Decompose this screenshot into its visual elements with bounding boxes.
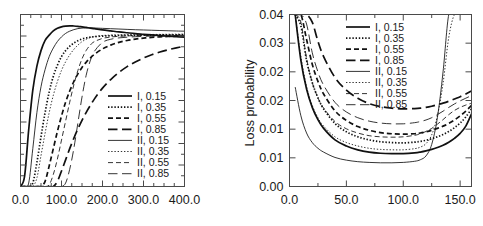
y-tick-label: 0.02	[259, 94, 283, 108]
x-tick-label: 150.0	[444, 193, 475, 207]
legend-label: II, 0.85	[137, 167, 169, 179]
x-tick-label: 100.0	[388, 193, 419, 207]
y-tick-label: 0.03	[259, 36, 283, 50]
x-tick-label: 400.0	[169, 193, 200, 207]
x-tick-label: 100.0	[46, 193, 77, 207]
right-ytick-labels: 0.000.010.010.020.020.030.04	[259, 8, 283, 194]
y-tick-label: 0.04	[259, 8, 283, 22]
legend-label: II, 0.85	[375, 98, 407, 110]
right-plot-svg: Loss probability 0.000.010.010.020.020.0…	[242, 0, 483, 226]
x-tick-label: 300.0	[128, 193, 159, 207]
right-legend: I, 0.15I, 0.35I, 0.55I, 0.85II, 0.15II, …	[346, 21, 407, 111]
figure-container: 0.0100.0200.0300.0400.0 I, 0.15I, 0.35I,…	[0, 0, 483, 226]
x-tick-label: 50.0	[334, 193, 358, 207]
chart-panel-left: 0.0100.0200.0300.0400.0 I, 0.15I, 0.35I,…	[0, 0, 242, 226]
chart-panel-right: Loss probability 0.000.010.010.020.020.0…	[242, 0, 483, 226]
x-tick-label: 0.0	[12, 193, 29, 207]
y-tick-label: 0.02	[259, 65, 283, 79]
x-tick-label: 200.0	[87, 193, 118, 207]
left-legend: I, 0.15I, 0.35I, 0.55I, 0.85II, 0.15II, …	[108, 90, 169, 180]
x-tick-label: 0.0	[281, 193, 298, 207]
y-tick-label: 0.01	[259, 122, 283, 136]
y-tick-label: 0.01	[259, 151, 283, 165]
right-y-axis-title: Loss probability	[243, 59, 257, 147]
left-xtick-labels: 0.0100.0200.0300.0400.0	[12, 193, 200, 207]
right-xtick-labels: 0.050.0100.0150.0	[281, 193, 476, 207]
left-plot-svg: 0.0100.0200.0300.0400.0 I, 0.15I, 0.35I,…	[0, 0, 242, 226]
